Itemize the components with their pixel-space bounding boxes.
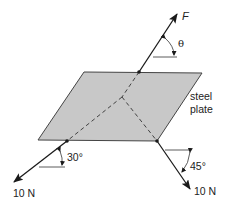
force-right-arrow: [157, 141, 190, 189]
force-F: F θ: [137, 10, 190, 74]
force-diagram: F θ 30° 10 N 45° 10 N steel plate: [0, 0, 230, 213]
force-left-angle-label: 30°: [67, 151, 83, 163]
plate-label-line1: steel: [190, 90, 212, 102]
force-left-angle-arc: [60, 151, 62, 165]
force-right: 45° 10 N: [155, 139, 216, 197]
force-right-angle-arc: [182, 152, 190, 172]
force-F-arrow: [139, 14, 177, 72]
force-F-angle-arc: [165, 38, 174, 55]
force-right-angle-label: 45°: [190, 160, 206, 172]
force-right-point: [155, 139, 159, 143]
force-left-arrow: [14, 141, 67, 182]
force-F-label: F: [182, 10, 190, 22]
plate-label-line2: plate: [190, 103, 213, 115]
steel-plate: [38, 72, 202, 141]
force-left-label: 10 N: [13, 187, 35, 199]
force-left-point: [65, 139, 69, 143]
force-F-point: [137, 70, 141, 74]
force-left: 30° 10 N: [13, 139, 83, 199]
force-F-angle-label: θ: [178, 38, 184, 49]
force-right-label: 10 N: [194, 185, 216, 197]
